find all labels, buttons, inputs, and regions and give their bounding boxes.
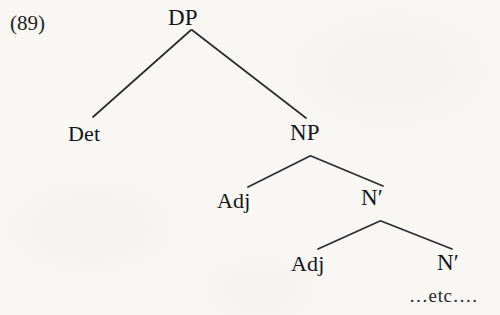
tree-node-adj-lower: Adj: [291, 253, 325, 275]
tree-node-adj-upper: Adj: [217, 190, 251, 212]
figure-canvas: (89) DP Det NP Adj N′ Adj N′ …etc….: [0, 0, 500, 315]
tree-node-np: NP: [290, 121, 320, 144]
edge-nbar-nbar: [381, 221, 452, 249]
edge-dp-det: [93, 30, 191, 117]
continuation-ellipsis-label: …etc….: [409, 286, 478, 305]
edge-np-nbar: [311, 156, 383, 186]
tree-node-nbar-upper: N′: [361, 186, 383, 209]
tree-node-dp: DP: [168, 6, 198, 29]
tree-node-det: Det: [68, 123, 100, 145]
tree-node-nbar-lower: N′: [437, 251, 459, 274]
tree-branch-lines: [0, 0, 500, 315]
edge-np-adj: [248, 156, 310, 187]
edge-dp-np: [192, 30, 306, 118]
edge-nbar-adj: [318, 221, 380, 249]
